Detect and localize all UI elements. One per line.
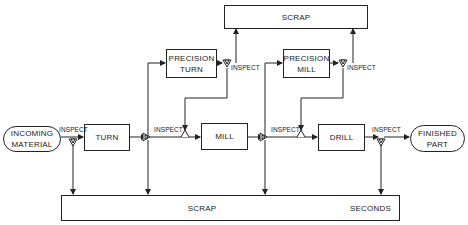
scrap-top-node: SCRAP [224,5,368,29]
process-flow-diagram: INCOMING MATERIAL TURN PRECISION TURN MI… [0,0,468,225]
inspect-label-1: INSPECT [59,126,88,133]
drill-node: DRILL [318,124,365,151]
mill-node: MILL [201,123,248,150]
inspect-label-3: INSPECT [231,64,260,71]
inspect-label-4: INSPECT [271,126,300,133]
precision-mill-node: PRECISION MILL [283,49,330,78]
inspect-label-6: INSPECT [372,126,401,133]
inspect-label-5: INSPECT [347,64,376,71]
turn-node: TURN [84,124,130,151]
inspect-label-2: INSPECT [154,126,183,133]
incoming-material-node: INCOMING MATERIAL [3,126,61,152]
precision-turn-node: PRECISION TURN [166,49,217,78]
connector-lines [0,0,468,225]
seconds-node: SECONDS [342,195,400,221]
scrap-bottom-node: SCRAP [61,195,343,221]
finished-part-node: FINISHED PART [410,125,465,152]
